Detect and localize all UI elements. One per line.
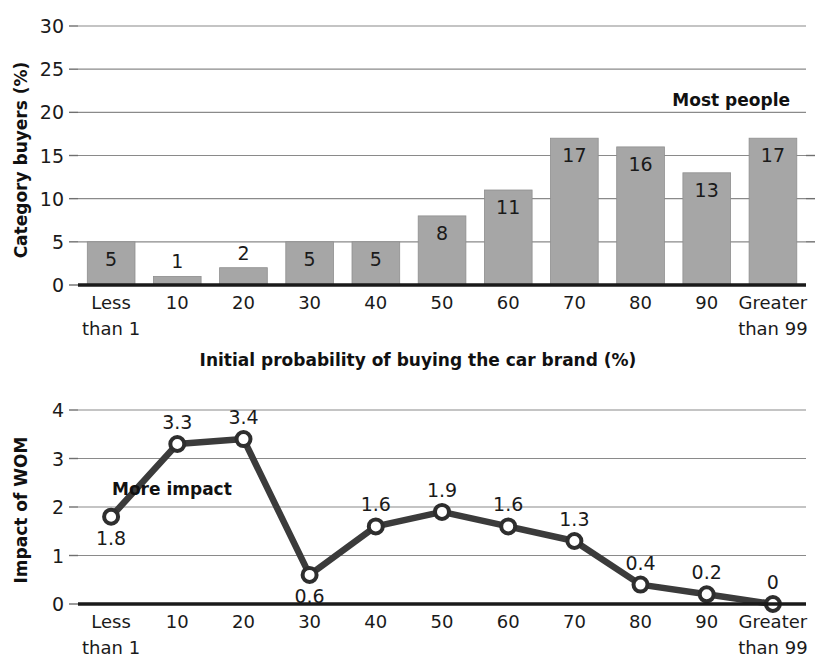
bar-value-label: 5: [105, 248, 117, 270]
point-value-label: 3.4: [228, 406, 258, 428]
two-panel-figure: Category buyers (%) 051015202530 5125581…: [0, 0, 834, 664]
point-value-label: 3.3: [162, 411, 192, 433]
bar-value-label: 11: [496, 196, 520, 218]
top-chart-x-category-labels: Lessthan 1102030405060708090Greaterthan …: [82, 292, 808, 339]
x-category-label: 20: [232, 292, 255, 313]
x-category-label: 80: [629, 292, 652, 313]
figure-svg: Category buyers (%) 051015202530 5125581…: [0, 0, 834, 664]
top-chart-y-axis-title: Category buyers (%): [11, 62, 31, 259]
data-point-marker: [303, 568, 317, 582]
data-point-marker: [501, 519, 515, 533]
x-category-label: 30: [298, 611, 321, 632]
y-tick-label: 10: [40, 188, 64, 210]
x-category-label: 20: [232, 611, 255, 632]
data-point-marker: [104, 510, 118, 524]
x-category-label: 40: [364, 611, 387, 632]
y-tick-label: 15: [40, 145, 64, 167]
shared-x-axis-title: Initial probability of buying the car br…: [200, 350, 637, 370]
point-value-label: 0.2: [692, 561, 722, 583]
y-tick-label: 2: [52, 496, 64, 518]
x-category-label: 60: [497, 292, 520, 313]
x-category-label: 90: [695, 611, 718, 632]
y-tick-label: 25: [40, 58, 64, 80]
bar-value-label: 16: [628, 153, 652, 175]
top-chart-bars: [87, 138, 797, 285]
top-chart-y-tick-labels: 051015202530: [40, 15, 64, 296]
x-category-label: 70: [563, 292, 586, 313]
y-tick-label: 3: [52, 448, 64, 470]
bar-value-label: 5: [304, 248, 316, 270]
point-value-label: 0: [767, 571, 779, 593]
x-category-label: 60: [497, 611, 520, 632]
point-value-label: 1.6: [361, 493, 391, 515]
bottom-chart-y-axis-title: Impact of WOM: [11, 437, 31, 584]
bottom-line-chart: Impact of WOM 01234 1.83.33.40.61.61.91.…: [11, 399, 808, 658]
data-point-marker: [369, 519, 383, 533]
data-point-marker: [567, 534, 581, 548]
y-tick-label: 0: [52, 274, 64, 296]
bar-value-label: 17: [761, 144, 785, 166]
x-category-label-line2: than 99: [738, 318, 808, 339]
data-point-marker: [170, 437, 184, 451]
bar: [220, 268, 268, 285]
x-category-label: 50: [431, 611, 454, 632]
most-people-annotation: Most people: [672, 90, 790, 110]
bar-value-label: 2: [237, 242, 249, 264]
bar-value-label: 13: [695, 179, 719, 201]
x-category-label: Greater: [739, 292, 808, 313]
point-value-label: 0.4: [625, 552, 655, 574]
point-value-label: 1.8: [96, 527, 126, 549]
x-category-label-line2: than 99: [738, 637, 808, 658]
x-category-label: 10: [166, 611, 189, 632]
y-tick-label: 20: [40, 101, 64, 123]
x-category-label: Less: [91, 611, 131, 632]
y-tick-label: 0: [52, 593, 64, 615]
point-value-label: 1.6: [493, 493, 523, 515]
data-point-marker: [435, 505, 449, 519]
bottom-chart-x-category-labels: Lessthan 1102030405060708090Greaterthan …: [82, 611, 808, 658]
x-category-label: 50: [431, 292, 454, 313]
x-category-label: Greater: [739, 611, 808, 632]
top-bar-chart: Category buyers (%) 051015202530 5125581…: [11, 15, 815, 339]
y-tick-label: 1: [52, 545, 64, 567]
bar-value-label: 8: [436, 222, 448, 244]
x-category-label: Less: [91, 292, 131, 313]
y-tick-label: 5: [52, 231, 64, 253]
x-category-label: 30: [298, 292, 321, 313]
x-category-label: 10: [166, 292, 189, 313]
data-point-marker: [700, 587, 714, 601]
x-category-label-line2: than 1: [82, 637, 140, 658]
data-point-marker: [237, 432, 251, 446]
x-category-label-line2: than 1: [82, 318, 140, 339]
x-category-label: 40: [364, 292, 387, 313]
bar-value-label: 5: [370, 248, 382, 270]
x-category-label: 90: [695, 292, 718, 313]
x-category-label: 70: [563, 611, 586, 632]
y-tick-label: 4: [52, 399, 64, 421]
wom-impact-line: [111, 439, 773, 604]
point-value-label: 1.9: [427, 479, 457, 501]
point-value-label: 1.3: [559, 508, 589, 530]
bottom-chart-y-tick-labels: 01234: [52, 399, 64, 615]
bar-value-label: 1: [171, 250, 183, 272]
y-tick-label: 30: [40, 15, 64, 37]
data-point-marker: [634, 578, 648, 592]
more-impact-annotation: More impact: [112, 479, 232, 499]
bar-value-label: 17: [562, 144, 586, 166]
x-category-label: 80: [629, 611, 652, 632]
